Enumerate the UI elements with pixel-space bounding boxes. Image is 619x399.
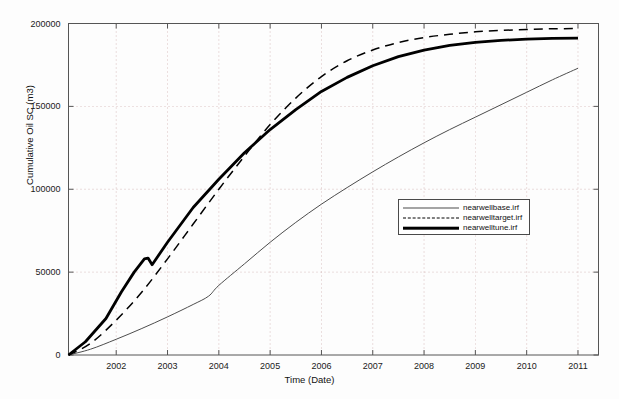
legend-item-nearwelltune: nearwelltune.irf <box>403 223 525 233</box>
x-tick-label: 2004 <box>195 361 243 371</box>
x-tick-label: 2003 <box>144 361 192 371</box>
legend-label-nearwelltune: nearwelltune.irf <box>463 223 517 233</box>
x-tick-label: 2006 <box>297 361 345 371</box>
x-tick-label: 2008 <box>400 361 448 371</box>
x-tick-label: 2009 <box>451 361 499 371</box>
x-tick-label: 2010 <box>503 361 551 371</box>
legend-item-nearwelltarget: nearwelltarget.irf <box>403 213 525 223</box>
series-line <box>69 28 578 355</box>
data-series <box>69 28 578 355</box>
y-axis-label: Cumulative Oil SC (m3) <box>24 85 35 185</box>
chart-figure: Cumulative Oil SC (m3) Time (Date) 05000… <box>0 0 619 399</box>
x-axis-label: Time (Date) <box>0 374 619 385</box>
series-line <box>69 38 578 355</box>
x-tick-label: 2007 <box>349 361 397 371</box>
legend-label-nearwelltarget: nearwelltarget.irf <box>463 213 522 223</box>
y-tick-label: 100000 <box>0 184 61 194</box>
legend-label-nearwellbase: nearwellbase.irf <box>463 203 519 213</box>
x-tick-label: 2011 <box>554 361 602 371</box>
chart-legend: nearwellbase.irf nearwelltarget.irf near… <box>398 199 530 235</box>
y-tick-label: 50000 <box>0 267 61 277</box>
grid-lines <box>69 24 599 356</box>
y-tick-label: 0 <box>0 350 61 360</box>
legend-item-nearwellbase: nearwellbase.irf <box>403 203 525 213</box>
legend-swatch-thick-solid-line <box>403 223 459 233</box>
legend-swatch-thin-solid-line <box>403 203 459 213</box>
legend-swatch-dashed-line <box>403 213 459 223</box>
x-tick-label: 2005 <box>246 361 294 371</box>
x-tick-label: 2002 <box>92 361 140 371</box>
y-tick-label: 150000 <box>0 101 61 111</box>
y-tick-label: 200000 <box>0 19 61 29</box>
